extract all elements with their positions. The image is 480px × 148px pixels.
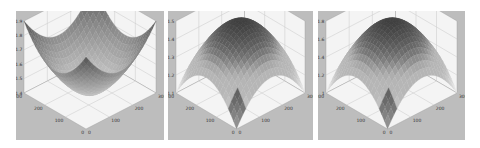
y-tick-label: 300 bbox=[318, 94, 324, 99]
surface-plot-3: 11.21.41.61.801002003000100200300 bbox=[318, 11, 465, 140]
x-tick-label: 0 bbox=[239, 130, 242, 135]
y-tick-label: 0 bbox=[232, 130, 235, 135]
x-tick-label: 300 bbox=[459, 94, 465, 99]
z-tick-label: 1.2 bbox=[318, 73, 325, 78]
y-tick-label: 100 bbox=[356, 118, 365, 123]
surface-plot-1: 1.41.51.61.71.81.901002003000100200300 bbox=[16, 11, 164, 140]
z-tick-label: 1.6 bbox=[16, 62, 23, 67]
y-tick-label: 0 bbox=[81, 130, 84, 135]
y-tick-label: 300 bbox=[16, 94, 22, 99]
x-tick-label: 200 bbox=[135, 106, 144, 111]
x-tick-label: 0 bbox=[88, 130, 91, 135]
z-tick-label: 1.2 bbox=[168, 73, 175, 78]
z-tick-label: 1.8 bbox=[318, 19, 325, 24]
y-tick-label: 100 bbox=[55, 118, 64, 123]
x-tick-label: 0 bbox=[390, 130, 393, 135]
plot-canvas-3: 11.21.41.61.801002003000100200300 bbox=[318, 11, 465, 140]
x-tick-label: 300 bbox=[307, 94, 313, 99]
y-tick-label: 0 bbox=[383, 130, 386, 135]
z-tick-label: 1.8 bbox=[16, 33, 23, 38]
y-tick-label: 300 bbox=[168, 94, 174, 99]
z-tick-label: 1.4 bbox=[168, 37, 175, 42]
z-tick-label: 1.4 bbox=[318, 55, 325, 60]
x-tick-label: 100 bbox=[261, 118, 270, 123]
x-tick-label: 200 bbox=[284, 106, 293, 111]
z-tick-label: 1.5 bbox=[168, 19, 175, 24]
z-tick-label: 1.7 bbox=[16, 47, 23, 52]
y-tick-label: 100 bbox=[206, 118, 215, 123]
z-tick-label: 1.5 bbox=[16, 76, 23, 81]
z-tick-label: 1.6 bbox=[318, 37, 325, 42]
x-tick-label: 300 bbox=[158, 94, 164, 99]
surface-plot-2: 1.11.21.31.41.501002003000100200300 bbox=[168, 11, 313, 140]
x-tick-label: 100 bbox=[413, 118, 422, 123]
y-tick-label: 200 bbox=[34, 106, 43, 111]
plot-canvas-2: 1.11.21.31.41.501002003000100200300 bbox=[168, 11, 313, 140]
z-tick-label: 1.3 bbox=[168, 55, 175, 60]
plot-canvas-1: 1.41.51.61.71.81.901002003000100200300 bbox=[16, 11, 164, 140]
y-tick-label: 200 bbox=[186, 106, 195, 111]
z-tick-label: 1.9 bbox=[16, 19, 23, 24]
x-tick-label: 100 bbox=[111, 118, 120, 123]
y-tick-label: 200 bbox=[336, 106, 345, 111]
x-tick-label: 200 bbox=[436, 106, 445, 111]
